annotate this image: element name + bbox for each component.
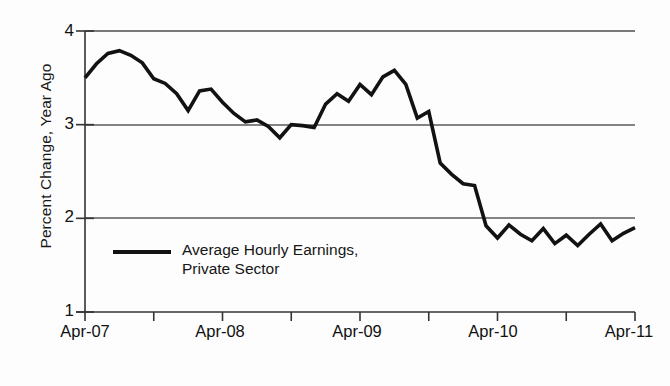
x-tick-label-apr-09: Apr-09 <box>311 322 403 341</box>
y-axis-title: Percent Change, Year Ago <box>37 26 55 286</box>
legend-label-line1: Average Hourly Earnings, <box>182 240 358 259</box>
chart-container: Percent Change, Year Ago 4 3 2 1 Apr-07 … <box>0 0 670 386</box>
y-tick-label-3: 3 <box>48 114 74 134</box>
x-tick-marks <box>85 312 635 321</box>
x-tick-label-apr-08: Apr-08 <box>174 322 266 341</box>
y-tick-label-1: 1 <box>48 301 74 321</box>
x-tick-label-apr-10: Apr-10 <box>447 322 539 341</box>
x-tick-label-apr-07: Apr-07 <box>39 322 131 341</box>
y-tick-label-2: 2 <box>48 207 74 227</box>
y-tick-label-4: 4 <box>48 21 74 41</box>
gridlines <box>85 31 635 218</box>
legend-label-line2: Private Sector <box>182 259 358 278</box>
legend-line-swatch <box>113 250 171 254</box>
legend-label: Average Hourly Earnings, Private Sector <box>182 240 358 278</box>
x-tick-label-apr-11: Apr-11 <box>583 322 670 341</box>
chart-legend: Average Hourly Earnings, Private Sector <box>113 240 413 278</box>
series-line-average-hourly-earnings <box>85 51 635 246</box>
